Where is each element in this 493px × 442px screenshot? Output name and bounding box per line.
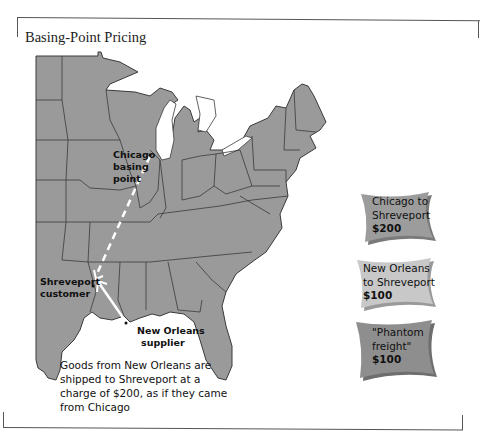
- note-line3: charge of $200, as if they came: [60, 386, 240, 400]
- card-text: "Phantom freight" $100: [372, 326, 424, 367]
- neworleans-label: New Orleans supplier: [137, 325, 205, 349]
- card-line1: "Phantom: [372, 326, 424, 338]
- card-text: Chicago to Shreveport $200: [372, 195, 430, 236]
- card-line1: New Orleans: [363, 262, 430, 274]
- frame-bottom-right-tick: [462, 415, 463, 430]
- shreveport-label-line2: customer: [40, 288, 100, 300]
- card-line2: freight": [372, 340, 411, 352]
- chicago-label-line1: Chicago: [113, 149, 155, 161]
- note-line1: Goods from New Orleans are: [60, 358, 240, 372]
- note-line2: shipped to Shreveport at a: [60, 372, 240, 386]
- chicago-label-line2: basing: [113, 161, 155, 173]
- explanation-note: Goods from New Orleans are shipped to Sh…: [60, 358, 240, 414]
- neworleans-label-line1: New Orleans: [137, 325, 205, 337]
- card-amount: $100: [363, 289, 435, 303]
- card-amount: $100: [372, 353, 424, 367]
- card-line1: Chicago to: [372, 195, 428, 207]
- card-neworleans-to-shreveport: New Orleans to Shreveport $100: [353, 254, 435, 308]
- chicago-label: Chicago basing point: [113, 149, 155, 185]
- card-phantom-freight: "Phantom freight" $100: [352, 316, 434, 370]
- note-line4: from Chicago: [60, 400, 240, 414]
- card-amount: $200: [372, 222, 430, 236]
- frame-bottom-left-tick: [3, 412, 4, 428]
- shreveport-label: Shreveport customer: [40, 276, 100, 300]
- card-text: New Orleans to Shreveport $100: [363, 262, 435, 303]
- card-chicago-to-shreveport: Chicago to Shreveport $200: [355, 186, 437, 240]
- card-line2: Shreveport: [372, 209, 430, 221]
- shreveport-label-line1: Shreveport: [40, 276, 100, 288]
- neworleans-label-line2: supplier: [137, 337, 205, 349]
- chicago-label-line3: point: [113, 173, 155, 185]
- neworleans-dot-icon: [125, 322, 128, 325]
- card-line2: to Shreveport: [363, 276, 435, 288]
